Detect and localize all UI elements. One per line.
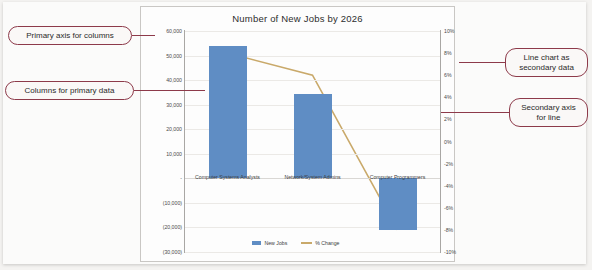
primary-axis-tick-label: 10,000 xyxy=(166,151,182,157)
legend-label: New Jobs xyxy=(264,240,287,246)
secondary-value-axis xyxy=(440,30,441,253)
line-swatch-icon xyxy=(301,242,312,244)
secondary-axis-tick: -10% xyxy=(185,252,440,253)
secondary-axis-tick-label: 6% xyxy=(444,72,452,78)
primary-axis-tick-label: - xyxy=(180,175,182,181)
primary-axis-tick-label: 40,000 xyxy=(166,77,182,83)
annotation-primary-axis: Primary axis for columns xyxy=(8,26,132,45)
leader-line-columns xyxy=(134,90,205,91)
secondary-axis-tick: -8% xyxy=(185,230,440,231)
plot-area: 60,00050,00040,00030,00020,00010,000-(10… xyxy=(185,31,440,252)
bar-new-jobs xyxy=(294,94,332,179)
annotation-columns: Columns for primary data xyxy=(5,81,134,100)
chart-title: Number of New Jobs by 2026 xyxy=(141,13,454,24)
square-swatch-icon xyxy=(252,241,261,245)
secondary-axis-tick: 10% xyxy=(185,31,440,32)
bar-new-jobs xyxy=(209,46,247,179)
secondary-axis-tick-label: -10% xyxy=(444,249,456,255)
bar-new-jobs xyxy=(379,178,417,230)
annotation-line-chart: Line chart as secondary data xyxy=(505,48,588,77)
leader-line-primary-axis xyxy=(132,35,155,36)
secondary-axis-tick-label: 0% xyxy=(444,139,452,145)
secondary-axis-tick-label: -2% xyxy=(444,161,453,167)
secondary-axis-tick-label: 8% xyxy=(444,50,452,56)
secondary-axis-tick-label: -4% xyxy=(444,183,453,189)
primary-axis-tick-label: 30,000 xyxy=(166,102,182,108)
legend-item: New Jobs xyxy=(252,240,287,246)
category-axis-label: Computer Systems Analysts xyxy=(195,174,260,180)
leader-line-secondary-axis xyxy=(441,112,509,113)
category-axis-label: Computer Programmers xyxy=(370,174,426,180)
legend-label: % Change xyxy=(315,240,339,246)
chart-legend: New Jobs% Change xyxy=(0,240,592,246)
primary-axis-tick-label: (30,000) xyxy=(163,249,182,255)
leader-line-line-chart xyxy=(459,62,505,63)
legend-item: % Change xyxy=(301,240,339,246)
primary-axis-tick-label: 20,000 xyxy=(166,126,182,132)
annotation-secondary-axis: Secondary axis for line xyxy=(509,98,588,127)
secondary-axis-tick-label: -8% xyxy=(444,227,453,233)
primary-axis-tick-label: 50,000 xyxy=(166,53,182,59)
primary-axis-tick-label: (10,000) xyxy=(163,200,182,206)
secondary-axis-tick-label: 4% xyxy=(444,94,452,100)
secondary-axis-tick-label: 10% xyxy=(444,28,454,34)
secondary-axis-tick-label: -6% xyxy=(444,205,453,211)
primary-axis-tick-label: 60,000 xyxy=(166,28,182,34)
category-axis-label: Network/System Admins xyxy=(284,174,340,180)
primary-axis-tick-label: (20,000) xyxy=(163,224,182,230)
scanned-page: Number of New Jobs by 2026 60,00050,0004… xyxy=(0,0,592,270)
secondary-axis-tick-label: 2% xyxy=(444,116,452,122)
